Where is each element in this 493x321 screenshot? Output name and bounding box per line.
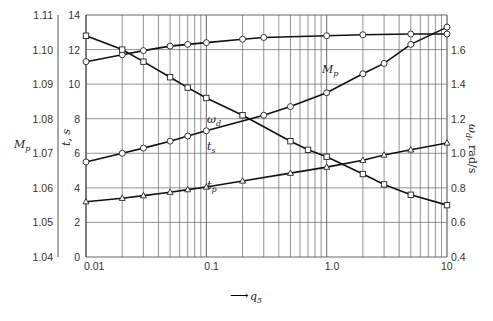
data-point-circle xyxy=(167,43,173,49)
data-point-circle xyxy=(444,31,450,37)
series xyxy=(83,24,450,208)
data-point-circle xyxy=(408,31,414,37)
data-point-circle xyxy=(203,128,209,134)
tick-label: 12 xyxy=(68,44,80,56)
tick-label: 10 xyxy=(68,78,80,90)
data-point-triangle xyxy=(444,140,450,145)
tick-label: 1.6 xyxy=(451,44,466,56)
data-point-square xyxy=(288,138,293,143)
x-axis-arrow: ⟶ xyxy=(230,288,249,303)
data-point-circle xyxy=(185,133,191,139)
x-axis-title: q5 xyxy=(250,290,262,305)
tick-label: 0 xyxy=(74,251,80,263)
tick-label: 1.05 xyxy=(33,216,54,228)
tick-label: 4 xyxy=(74,182,80,194)
mp-axis-title: Mp xyxy=(13,138,30,153)
data-point-circle xyxy=(119,150,125,156)
tick-label: 1.0 xyxy=(325,260,340,272)
tick-label: 0.1 xyxy=(204,260,219,272)
data-point-square xyxy=(408,192,413,197)
data-point-circle xyxy=(140,145,146,151)
data-point-circle xyxy=(287,104,293,110)
data-point-circle xyxy=(140,48,146,54)
data-point-circle xyxy=(324,33,330,39)
tick-label: 0.8 xyxy=(451,182,466,194)
data-point-circle xyxy=(444,24,450,30)
data-point-square xyxy=(240,113,245,118)
data-point-square xyxy=(83,33,88,38)
data-point-circle xyxy=(360,32,366,38)
omega-axis-title: ωd, rad/s xyxy=(464,124,479,174)
tick-label: 6 xyxy=(74,147,80,159)
tick-label: 1.4 xyxy=(451,78,466,90)
tick-label: 1.08 xyxy=(33,113,54,125)
data-point-circle xyxy=(381,60,387,66)
tick-label: 2 xyxy=(74,216,80,228)
t-axis-title: t, s xyxy=(60,129,73,146)
data-point-circle xyxy=(185,41,191,47)
curve-label-mp: Mp xyxy=(321,63,338,78)
data-point-square xyxy=(305,147,310,152)
tick-label: 0.6 xyxy=(451,216,466,228)
data-point-circle xyxy=(167,138,173,144)
tick-label: 1.04 xyxy=(33,251,54,263)
tick-label: 1.06 xyxy=(33,182,54,194)
data-point-square xyxy=(381,182,386,187)
tick-label: 1.09 xyxy=(33,78,54,90)
data-point-circle xyxy=(261,112,267,118)
data-point-circle xyxy=(261,34,267,40)
tick-label: 1.11 xyxy=(33,9,53,21)
data-point-square xyxy=(444,202,449,207)
tick-label: 0.4 xyxy=(451,251,466,263)
curve-label-tp: tp xyxy=(207,179,217,194)
data-point-circle xyxy=(240,36,246,42)
data-point-square xyxy=(141,59,146,64)
tick-label: 1.07 xyxy=(33,147,54,159)
tick-labels: 1.041.051.061.071.081.091.101.1102468101… xyxy=(33,9,466,272)
data-point-circle xyxy=(408,41,414,47)
data-point-circle xyxy=(203,40,209,46)
data-point-square xyxy=(185,85,190,90)
tick-label: 1.10 xyxy=(33,44,54,56)
tick-label: 10 xyxy=(441,260,453,272)
tick-label: 1.0 xyxy=(451,147,466,159)
data-point-square xyxy=(360,171,365,176)
data-point-square xyxy=(167,75,172,80)
curve-label-wd: ωd xyxy=(207,113,221,128)
chart: 1.041.051.061.071.081.091.101.1102468101… xyxy=(0,0,493,321)
data-point-square xyxy=(120,47,125,52)
data-point-circle xyxy=(83,159,89,165)
data-point-square xyxy=(204,95,209,100)
data-point-square xyxy=(324,154,329,159)
tick-label: 8 xyxy=(74,113,80,125)
curve-label-ts: ts xyxy=(207,140,216,155)
tick-label: 1.2 xyxy=(451,113,466,125)
data-point-circle xyxy=(83,59,89,65)
tick-label: 0.01 xyxy=(84,260,105,272)
data-point-circle xyxy=(360,71,366,77)
data-point-circle xyxy=(324,90,330,96)
tick-label: 14 xyxy=(68,9,80,21)
